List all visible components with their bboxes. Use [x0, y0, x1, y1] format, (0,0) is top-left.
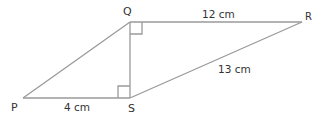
point-label-s: S	[128, 102, 135, 115]
point-label-q: Q	[123, 5, 132, 18]
segment-rs	[130, 22, 302, 98]
point-label-r: R	[305, 11, 312, 22]
length-label-rs: 13 cm	[218, 63, 251, 75]
right-angle-marker-s	[118, 86, 130, 98]
segment-pq	[23, 22, 130, 98]
geometry-diagram: Q R P S 12 cm 13 cm 4 cm	[0, 0, 322, 119]
length-label-qr: 12 cm	[202, 8, 235, 20]
right-angle-marker-q	[130, 22, 142, 34]
length-label-ps: 4 cm	[64, 101, 90, 113]
point-label-p: P	[11, 101, 18, 114]
